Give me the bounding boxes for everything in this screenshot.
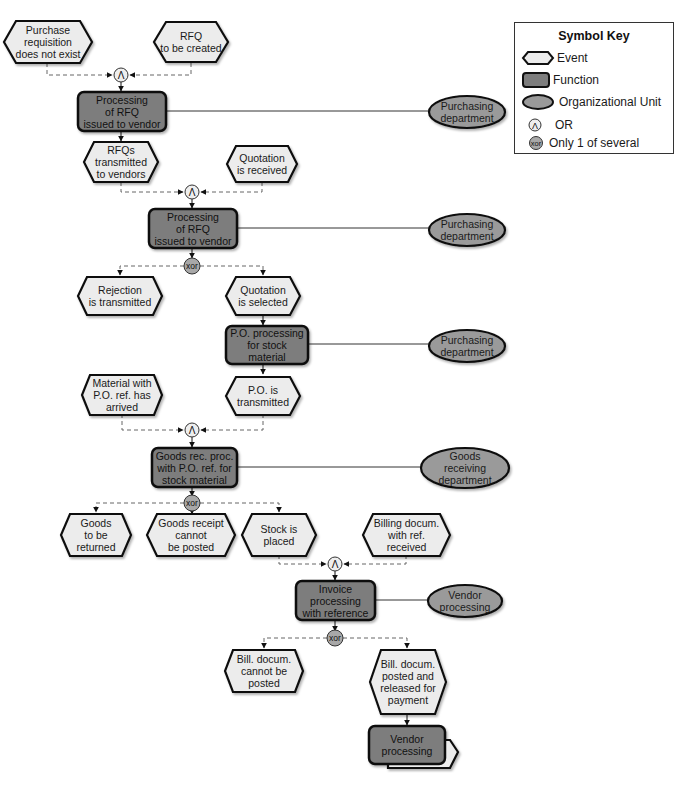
function-f2[interactable] bbox=[149, 209, 237, 248]
event-e2[interactable] bbox=[154, 22, 228, 62]
event-e7[interactable] bbox=[82, 375, 162, 415]
event-e10[interactable] bbox=[147, 514, 235, 556]
function-f6-process-path[interactable] bbox=[369, 726, 458, 768]
legend-label: Organizational Unit bbox=[559, 95, 661, 109]
org-unit-o1[interactable] bbox=[429, 96, 505, 128]
event-hexagon-icon bbox=[521, 50, 555, 66]
svg-text:xor: xor bbox=[531, 139, 542, 148]
svg-text:Λ: Λ bbox=[332, 559, 339, 570]
event-e3[interactable] bbox=[84, 142, 158, 182]
svg-text:Λ: Λ bbox=[118, 70, 125, 81]
event-e1[interactable] bbox=[4, 21, 92, 63]
function-f5[interactable] bbox=[296, 581, 375, 620]
event-e9[interactable] bbox=[61, 514, 131, 556]
event-e12[interactable] bbox=[363, 514, 450, 556]
symbol-key-legend: Symbol Key Event Function Organizational… bbox=[514, 22, 674, 154]
event-e14[interactable] bbox=[370, 650, 446, 714]
legend-item-function: Function bbox=[521, 71, 599, 89]
or-connector-icon: Λ bbox=[527, 117, 543, 133]
event-e8[interactable] bbox=[226, 377, 300, 415]
event-e4[interactable] bbox=[227, 146, 297, 182]
svg-text:Λ: Λ bbox=[189, 425, 196, 436]
svg-text:xor: xor bbox=[186, 261, 198, 271]
event-e5[interactable] bbox=[78, 277, 162, 315]
events bbox=[4, 21, 450, 714]
legend-item-xor: xor Only 1 of several bbox=[527, 134, 639, 152]
event-e13[interactable] bbox=[225, 650, 303, 692]
legend-item-org-unit: Organizational Unit bbox=[521, 93, 661, 111]
legend-title: Symbol Key bbox=[515, 29, 673, 43]
function-f4[interactable] bbox=[152, 448, 237, 487]
xor-connector-icon: xor bbox=[527, 135, 545, 151]
legend-label: Event bbox=[557, 51, 588, 65]
svg-text:Λ: Λ bbox=[532, 121, 538, 131]
function-rect-icon bbox=[521, 71, 551, 89]
org-unit-o4[interactable] bbox=[421, 448, 509, 488]
org-unit-o5[interactable] bbox=[428, 585, 502, 617]
org-unit-o2[interactable] bbox=[429, 214, 505, 246]
svg-text:Λ: Λ bbox=[189, 187, 196, 198]
svg-text:xor: xor bbox=[186, 498, 198, 508]
event-e6[interactable] bbox=[226, 277, 300, 315]
svg-text:xor: xor bbox=[329, 633, 341, 643]
org-unit-ellipse-icon bbox=[521, 93, 555, 111]
legend-item-or: Λ OR bbox=[527, 116, 573, 134]
legend-label: Function bbox=[553, 73, 599, 87]
function-f3[interactable] bbox=[226, 326, 308, 364]
function-f1[interactable] bbox=[78, 92, 166, 131]
legend-label: OR bbox=[555, 118, 573, 132]
legend-label: Only 1 of several bbox=[549, 136, 639, 150]
legend-item-event: Event bbox=[521, 49, 588, 67]
event-e11[interactable] bbox=[242, 514, 316, 556]
org-unit-o3[interactable] bbox=[429, 330, 505, 362]
